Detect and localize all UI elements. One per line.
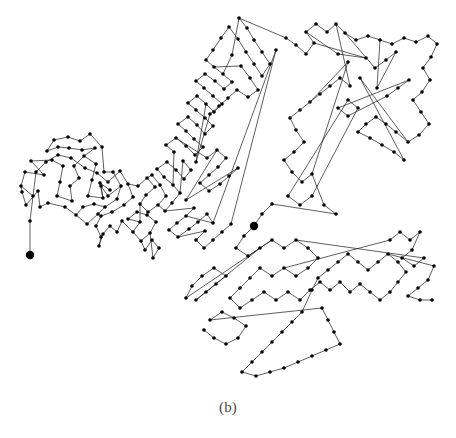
graph-edge: [80, 134, 90, 141]
figure-caption: (b): [0, 399, 456, 416]
graph-node: [410, 248, 414, 252]
graph-node: [136, 184, 140, 188]
graph-node: [304, 30, 308, 34]
graph-node: [227, 174, 231, 178]
graph-edge: [183, 161, 191, 170]
graph-node: [202, 246, 206, 250]
graph-node: [346, 60, 350, 64]
graph-node: [326, 318, 330, 322]
graph-edge: [284, 240, 390, 268]
graph-node: [94, 224, 98, 228]
graph-node: [131, 230, 135, 234]
graph-edge: [240, 300, 252, 308]
graph-node: [108, 188, 112, 192]
graph-node: [260, 212, 264, 216]
graph-node: [100, 145, 104, 149]
graph-edge: [76, 215, 87, 224]
graph-edge: [88, 180, 92, 196]
graph-node: [336, 260, 340, 264]
graph-node: [332, 330, 336, 334]
graph-edge: [150, 222, 156, 233]
graph-node: [218, 182, 222, 186]
graph-node: [426, 278, 430, 282]
graph-node: [204, 102, 208, 106]
graph-node: [290, 170, 294, 174]
graph-node: [150, 173, 154, 177]
graph-edge: [394, 152, 404, 160]
graph-node: [194, 238, 198, 242]
graph-node: [418, 230, 422, 234]
graph-node: [86, 194, 90, 198]
graph-node: [260, 350, 264, 354]
graph-edge: [204, 88, 213, 96]
graph-edge: [54, 137, 68, 140]
graph-node: [203, 229, 207, 233]
graph-node: [81, 205, 85, 209]
graph-node: [150, 238, 154, 242]
graph-edge: [298, 356, 312, 362]
graph-edge: [272, 268, 284, 276]
graph-node: [184, 198, 188, 202]
graph-node: [175, 221, 179, 225]
graph-edge: [358, 132, 370, 138]
graph-edge: [370, 292, 380, 300]
graph-edge: [421, 112, 429, 124]
graph-node: [20, 190, 24, 194]
graph-edge: [33, 172, 36, 196]
graph-node: [19, 184, 23, 188]
graph-node: [38, 205, 42, 209]
graph-node: [356, 106, 360, 110]
graph-edge: [47, 140, 54, 151]
graph-node: [398, 230, 402, 234]
graph-node: [294, 128, 298, 132]
graph-node: [419, 110, 423, 114]
graph-node: [82, 154, 86, 158]
graph-edge: [316, 24, 327, 32]
graph-edge: [252, 292, 264, 300]
graph-node: [258, 246, 262, 250]
graph-node: [343, 31, 347, 35]
graph-edge: [380, 292, 390, 300]
graph-edge: [70, 178, 79, 186]
graph-node: [242, 234, 246, 238]
graph-node: [237, 16, 241, 20]
graph-node: [50, 158, 54, 162]
graph-node: [336, 106, 340, 110]
graph-node: [85, 222, 89, 226]
graph-edge: [222, 312, 234, 318]
graph-node: [174, 168, 178, 172]
graph-node: [230, 53, 234, 57]
graph-node: [162, 175, 166, 179]
graph-edge: [360, 284, 370, 292]
graph-edge: [164, 177, 173, 185]
graph-edge: [230, 298, 240, 308]
graph-edge: [390, 232, 400, 240]
graph-node: [244, 324, 248, 328]
network-graph: [0, 0, 456, 438]
graph-node: [222, 87, 226, 91]
graph-node: [184, 144, 188, 148]
graph-node: [270, 340, 274, 344]
graph-node: [432, 264, 436, 268]
graph-node: [430, 298, 434, 302]
graph-node: [386, 252, 390, 256]
graph-edge: [234, 318, 246, 326]
graph-node: [92, 202, 96, 206]
graph-edge: [213, 96, 222, 104]
graph-node: [420, 90, 424, 94]
graph-edge: [57, 182, 60, 196]
graph-node: [28, 219, 32, 223]
graph-edge: [90, 134, 102, 147]
graph-node: [144, 193, 148, 197]
graph-edge: [146, 187, 155, 195]
graph-node: [93, 146, 97, 150]
graph-node: [163, 209, 167, 213]
graph-node: [282, 158, 286, 162]
graph-edge: [390, 282, 398, 292]
graph-edge: [248, 90, 258, 97]
graph-node: [411, 98, 415, 102]
graph-edge: [22, 192, 26, 205]
graph-edge: [102, 147, 104, 172]
graph-node: [252, 62, 256, 66]
graph-node: [316, 256, 320, 260]
